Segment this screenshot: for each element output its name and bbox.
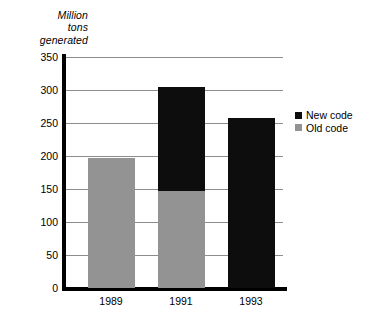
legend-item-new-code[interactable]: New code bbox=[295, 109, 353, 122]
legend-label-new-code: New code bbox=[306, 109, 353, 122]
x-tick-label-1993: 1993 bbox=[221, 296, 281, 307]
y-tick-label-200: 200 bbox=[10, 151, 58, 162]
x-tick-label-1991: 1991 bbox=[151, 296, 211, 307]
y-tick-label-0: 0 bbox=[10, 283, 58, 294]
y-axis-title: Million tons generated bbox=[8, 9, 88, 46]
bar-1989-segment-old-code[interactable] bbox=[88, 158, 135, 288]
x-tick-label-1989: 1989 bbox=[81, 296, 141, 307]
bar-chart: Million tons generated 350 300 250 200 1… bbox=[0, 0, 368, 316]
plot-area bbox=[66, 57, 283, 288]
legend-swatch-old-code-icon bbox=[295, 124, 302, 131]
bar-1991-segment-new-code[interactable] bbox=[158, 87, 205, 191]
y-axis-title-line-2: tons bbox=[8, 21, 88, 33]
gridline-350 bbox=[66, 57, 283, 58]
legend: New code Old code bbox=[295, 109, 353, 134]
y-tick-label-350: 350 bbox=[10, 52, 58, 63]
bar-1991[interactable] bbox=[158, 87, 205, 288]
y-axis-title-line-3: generated bbox=[8, 34, 88, 46]
legend-item-old-code[interactable]: Old code bbox=[295, 122, 353, 135]
legend-swatch-new-code-icon bbox=[295, 112, 302, 119]
y-tick-label-250: 250 bbox=[10, 118, 58, 129]
y-tick-label-300: 300 bbox=[10, 85, 58, 96]
bar-1993-segment-new-code[interactable] bbox=[228, 118, 275, 288]
y-tick-label-150: 150 bbox=[10, 184, 58, 195]
legend-label-old-code: Old code bbox=[306, 122, 348, 135]
bar-1991-segment-old-code[interactable] bbox=[158, 191, 205, 288]
y-tick-label-50: 50 bbox=[10, 250, 58, 261]
y-axis-title-line-1: Million bbox=[8, 9, 88, 21]
y-tick-label-100: 100 bbox=[10, 217, 58, 228]
bar-1993[interactable] bbox=[228, 118, 275, 288]
bar-1989[interactable] bbox=[88, 158, 135, 288]
